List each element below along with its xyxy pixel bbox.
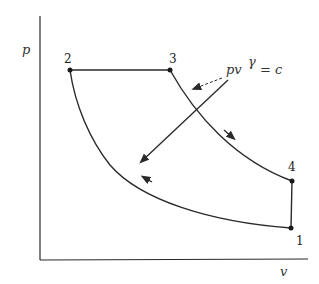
pv-diagram: p v 2 3 4 1 pv γ = c [0,0,319,284]
x-axis-label: v [280,264,288,279]
arrow-1-2-icon [145,178,152,182]
cycle-points [68,68,295,231]
point-label-1: 1 [296,234,304,248]
y-axis-label: p [22,42,31,57]
point-label-3: 3 [169,52,177,66]
point-label-4: 4 [288,160,296,174]
point-2 [68,68,73,73]
point-3 [168,68,173,73]
isentrope-indicator-line [143,80,228,160]
process-4-1 [291,181,292,228]
process-1-2 [70,70,291,228]
point-4 [290,179,295,184]
equation-rhs: = c [260,62,283,77]
arrow-3-4-icon [224,130,232,137]
point-1 [289,226,294,231]
label-leader-dashed [196,78,222,88]
point-label-2: 2 [64,52,72,66]
process-3-4 [170,70,292,181]
equation-annotation: pv γ = c [226,54,283,77]
equation-base: pv [226,62,242,77]
equation-exponent: γ [248,54,256,69]
x-axis [40,259,308,260]
